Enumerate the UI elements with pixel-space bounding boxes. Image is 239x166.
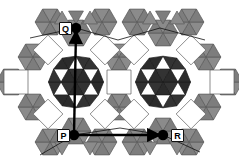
triangle-tile <box>178 69 191 82</box>
triangle-tile <box>48 69 61 82</box>
triangle-tile <box>48 82 61 95</box>
point-label-p: P <box>57 129 70 142</box>
triangle-tile <box>91 82 104 95</box>
point-dot-p <box>69 130 79 140</box>
point-dot-r <box>158 130 168 140</box>
triangle-tile <box>178 82 191 95</box>
point-label-q: Q <box>59 22 72 35</box>
triangle-tile <box>91 69 104 82</box>
square-tile <box>107 70 131 94</box>
triangle-tile <box>135 82 148 95</box>
point-dot-q <box>71 23 81 33</box>
point-label-r: R <box>171 129 184 142</box>
square-tile <box>4 70 28 94</box>
square-tile <box>210 70 234 94</box>
tiling-svg <box>0 0 239 166</box>
tiling-figure: Q P R <box>0 0 239 166</box>
triangle-tile <box>135 69 148 82</box>
